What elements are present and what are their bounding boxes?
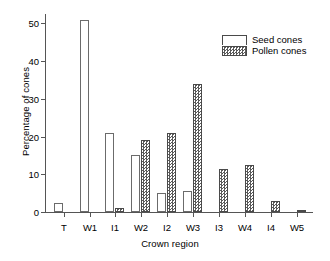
y-tick-mark — [41, 137, 46, 138]
x-tick-mark — [167, 213, 168, 217]
bar-i2-seed — [157, 193, 166, 212]
x-tick-label: W5 — [290, 222, 304, 233]
y-tick-mark — [41, 23, 46, 24]
x-tick-mark — [64, 213, 65, 217]
x-axis-line — [45, 212, 313, 213]
y-tick: 0 — [45, 212, 46, 213]
bar-w1-seed — [80, 20, 89, 212]
y-tick-mark — [41, 174, 46, 175]
legend-label: Pollen cones — [252, 45, 306, 56]
y-tick-label: 0 — [34, 207, 39, 218]
y-tick: 20 — [45, 137, 46, 138]
y-tick-mark — [41, 99, 46, 100]
y-tick: 30 — [45, 99, 46, 100]
bar-w3-seed — [183, 191, 192, 212]
legend-label: Seed cones — [252, 34, 302, 45]
x-tick-mark — [90, 213, 91, 217]
legend-swatch-pollen-cones — [222, 46, 247, 56]
bar-i3-pollen — [219, 169, 228, 212]
y-tick: 10 — [45, 174, 46, 175]
y-tick-mark — [41, 61, 46, 62]
y-tick: 50 — [45, 23, 46, 24]
x-tick-label: W2 — [134, 222, 148, 233]
x-tick-mark — [219, 213, 220, 217]
bar-chart-figure: Percentage of cones Crown region 0102030… — [0, 0, 330, 261]
bar-w3-pollen — [193, 84, 202, 212]
x-tick-mark — [115, 213, 116, 217]
y-axis-line — [45, 14, 46, 213]
bar-i2-pollen — [167, 133, 176, 212]
x-tick-label: W3 — [186, 222, 200, 233]
x-tick-label: I1 — [111, 222, 119, 233]
x-tick-mark — [193, 213, 194, 217]
y-tick-label: 10 — [28, 169, 39, 180]
x-tick-mark — [245, 213, 246, 217]
x-tick-label: I2 — [163, 222, 171, 233]
y-tick-mark — [41, 212, 46, 213]
bar-w2-seed — [131, 155, 140, 212]
y-tick: 40 — [45, 61, 46, 62]
bar-i1-seed — [105, 133, 114, 212]
y-tick-label: 20 — [28, 131, 39, 142]
x-tick-mark — [297, 213, 298, 217]
x-tick-mark — [271, 213, 272, 217]
bar-w5-pollen — [297, 210, 306, 212]
x-axis-title: Crown region — [45, 238, 295, 249]
legend-item: Seed cones — [222, 34, 306, 45]
x-tick-mark — [141, 213, 142, 217]
x-tick-label: I3 — [215, 222, 223, 233]
x-tick-label: W1 — [83, 222, 97, 233]
x-tick-label: I4 — [267, 222, 275, 233]
y-tick-label: 40 — [28, 56, 39, 67]
bar-i4-pollen — [271, 201, 280, 212]
x-tick-label: T — [61, 222, 67, 233]
legend-swatch-seed-cones — [222, 35, 247, 45]
bar-i1-pollen — [115, 208, 124, 212]
bar-w4-pollen — [245, 165, 254, 212]
y-tick-label: 50 — [28, 18, 39, 29]
chart-legend: Seed conesPollen cones — [222, 34, 306, 56]
bar-t-seed — [54, 203, 63, 212]
legend-item: Pollen cones — [222, 45, 306, 56]
x-tick-label: W4 — [238, 222, 252, 233]
bar-w2-pollen — [141, 140, 150, 212]
y-tick-label: 30 — [28, 93, 39, 104]
